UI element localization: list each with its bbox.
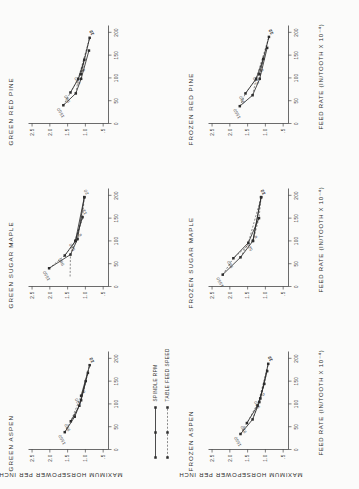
svg-text:1.0: 1.0 [262, 128, 267, 135]
svg-text:2.5: 2.5 [209, 128, 214, 135]
svg-text:2.0: 2.0 [47, 291, 52, 298]
series-label: 1550 [57, 433, 67, 445]
series-label: 1550 [214, 275, 224, 287]
svg-text:200: 200 [113, 27, 118, 36]
chart-panel: GREEN SUGAR MAPLE050100150200.51.01.52.0… [0, 163, 180, 326]
svg-text:.5: .5 [280, 291, 285, 296]
svg-text:50: 50 [113, 423, 118, 429]
svg-text:1.5: 1.5 [65, 291, 70, 298]
chart-panel: FROZEN ASPEN050100150200.51.01.52.02.515… [180, 326, 359, 489]
svg-text:1.0: 1.0 [262, 291, 267, 298]
series-label: 20 [82, 188, 89, 195]
series-label: 1550 [232, 435, 242, 447]
x-axis-title: FEED RATE (IN/TOOTH X 10⁻⁴) [316, 23, 323, 129]
svg-text:0: 0 [113, 447, 118, 450]
svg-text:.5: .5 [100, 291, 105, 296]
svg-text:0: 0 [113, 284, 118, 287]
series-line [49, 197, 84, 268]
y-axis-title: MAXIMUM HORSEPOWER PER INCH [0, 471, 122, 477]
svg-text:200: 200 [113, 353, 118, 362]
svg-text:150: 150 [293, 376, 298, 385]
y-axis-title: MAXIMUM HORSEPOWER PER INCH [178, 471, 302, 477]
series-label: 20 [266, 27, 273, 34]
panel-title: FROZEN SUGAR MAPLE [186, 216, 193, 308]
svg-text:200: 200 [113, 190, 118, 199]
svg-text:150: 150 [113, 376, 118, 385]
plot-area: 050100150200.51.01.52.02.515509805206122… [200, 182, 306, 302]
svg-text:2.5: 2.5 [209, 454, 214, 461]
svg-text:.5: .5 [280, 454, 285, 459]
svg-text:1.0: 1.0 [83, 128, 88, 135]
panel-title: GREEN SUGAR MAPLE [6, 221, 13, 308]
svg-text:1.5: 1.5 [65, 128, 70, 135]
svg-text:50: 50 [293, 423, 298, 429]
svg-text:200: 200 [293, 353, 298, 362]
svg-text:1.5: 1.5 [244, 291, 249, 298]
svg-text:2.5: 2.5 [29, 454, 34, 461]
figure-sheet: GREEN ASPEN050100150200.51.01.52.02.5155… [0, 0, 359, 489]
plot-area: 050100150200.51.01.52.02.515509805206122… [200, 19, 306, 139]
svg-text:1.5: 1.5 [244, 454, 249, 461]
plot-area: 050100150200.51.01.52.02.515509805206122… [20, 345, 126, 465]
series-label: 20 [87, 356, 94, 363]
chart-panel: GREEN ASPEN050100150200.51.01.52.02.5155… [0, 326, 180, 489]
series-label: 6 [252, 234, 258, 239]
svg-text:200: 200 [293, 27, 298, 36]
panel-title: GREEN ASPEN [6, 415, 13, 471]
svg-text:2.0: 2.0 [227, 128, 232, 135]
svg-text:2.0: 2.0 [47, 128, 52, 135]
legend-label-table-feed-speed: TABLE FEED SPEED [164, 348, 169, 401]
svg-text:150: 150 [293, 213, 298, 222]
x-axis-title: FEED RATE (IN/TOOTH X 10⁻⁴) [316, 186, 323, 292]
chart-panel: GREEN RED PINE050100150200.51.01.52.02.5… [0, 0, 180, 163]
svg-text:50: 50 [113, 97, 118, 103]
svg-text:150: 150 [113, 50, 118, 59]
svg-text:100: 100 [113, 236, 118, 245]
series-label: 1550 [41, 269, 51, 281]
panel-title: FROZEN ASPEN [186, 410, 193, 471]
svg-text:150: 150 [293, 50, 298, 59]
plot-area: 050100150200.51.01.52.02.515509805206122… [20, 182, 126, 302]
svg-text:150: 150 [113, 213, 118, 222]
series-label: 980 [238, 424, 246, 434]
panel-title: GREEN RED PINE [6, 77, 13, 145]
svg-text:.5: .5 [280, 128, 285, 133]
series-line [75, 37, 89, 93]
chart-panel: FROZEN RED PINE050100150200.51.01.52.02.… [180, 0, 359, 163]
svg-text:100: 100 [293, 236, 298, 245]
svg-text:100: 100 [113, 399, 118, 408]
svg-text:50: 50 [113, 260, 118, 266]
series-label: 20 [266, 354, 273, 361]
svg-text:2.0: 2.0 [227, 291, 232, 298]
legend-label-spindle-rpm: SPINDLE RPM [152, 364, 157, 401]
figure-page: GREEN ASPEN050100150200.51.01.52.02.5155… [0, 0, 359, 489]
svg-text:.5: .5 [100, 454, 105, 459]
svg-text:1.0: 1.0 [262, 454, 267, 461]
svg-text:50: 50 [293, 260, 298, 266]
chart-panel: FROZEN SUGAR MAPLE050100150200.51.01.52.… [180, 163, 359, 326]
svg-text:1.5: 1.5 [244, 128, 249, 135]
svg-text:1.5: 1.5 [65, 454, 70, 461]
svg-text:100: 100 [113, 73, 118, 82]
svg-text:1.0: 1.0 [83, 454, 88, 461]
svg-text:0: 0 [113, 121, 118, 124]
svg-text:200: 200 [293, 190, 298, 199]
svg-text:100: 100 [293, 73, 298, 82]
svg-text:50: 50 [293, 97, 298, 103]
series-label: 1550 [231, 107, 241, 119]
x-axis-title: FEED RATE (IN/TOOTH X 10⁻⁴) [316, 349, 323, 455]
series-line [240, 371, 267, 434]
svg-text:2.5: 2.5 [29, 128, 34, 135]
plot-area: 050100150200.51.01.52.02.515509805206122… [200, 345, 306, 465]
svg-text:2.0: 2.0 [227, 454, 232, 461]
legend: SPINDLE RPMTABLE FEED SPEED [146, 333, 180, 463]
svg-text:0: 0 [293, 284, 298, 287]
svg-text:0: 0 [293, 121, 298, 124]
series-label: 20 [258, 188, 265, 195]
panel-title: FROZEN RED PINE [186, 72, 193, 145]
series-line [252, 36, 268, 94]
panel-grid: GREEN ASPEN050100150200.51.01.52.02.5155… [0, 0, 359, 489]
series-label: 20 [87, 28, 94, 35]
series-label: 1550 [55, 106, 65, 118]
svg-text:.5: .5 [100, 128, 105, 133]
